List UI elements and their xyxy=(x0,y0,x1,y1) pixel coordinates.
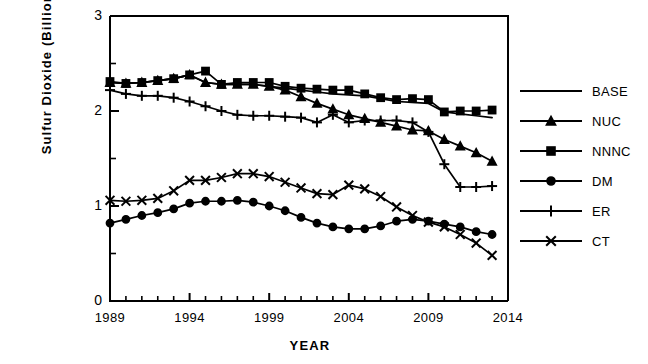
legend-item-dm[interactable]: DM xyxy=(520,166,644,196)
legend-item-er[interactable]: ER xyxy=(520,196,644,226)
legend-label: DM xyxy=(582,174,613,189)
legend-line-icon xyxy=(520,83,582,99)
axes xyxy=(110,16,508,301)
legend-triangle-marker-icon xyxy=(520,113,582,129)
series-dm xyxy=(106,197,495,238)
chart-figure: Sulfur Dioxide (Billion Lbs) YEAR 0123 1… xyxy=(0,0,648,364)
legend-square-marker-icon xyxy=(520,143,582,159)
legend-item-nnnc[interactable]: NNNC xyxy=(520,136,644,166)
axis-ticks xyxy=(110,16,508,301)
legend-cross-marker-icon xyxy=(520,233,582,249)
legend-label: BASE xyxy=(582,84,628,99)
legend-item-nuc[interactable]: NUC xyxy=(520,106,644,136)
legend-label: ER xyxy=(582,204,611,219)
legend-item-ct[interactable]: CT xyxy=(520,226,644,256)
legend-label: NNNC xyxy=(582,144,631,159)
legend-item-base[interactable]: BASE xyxy=(520,76,644,106)
legend-circle-marker-icon xyxy=(520,173,582,189)
data-series-group xyxy=(105,68,497,260)
legend: BASENUCNNNCDMERCT xyxy=(520,76,644,256)
legend-plus-marker-icon xyxy=(520,203,582,219)
legend-label: CT xyxy=(582,234,610,249)
legend-label: NUC xyxy=(582,114,621,129)
